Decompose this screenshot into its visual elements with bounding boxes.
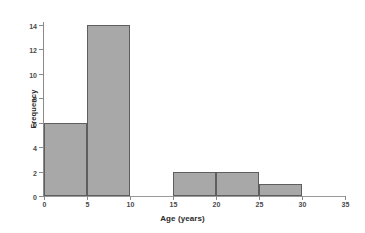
- x-tick-label: 0: [43, 201, 47, 208]
- histogram-bar: [87, 25, 130, 196]
- plot-area: [44, 22, 345, 196]
- x-tick: 15: [173, 196, 174, 200]
- y-axis-title: Frequency: [29, 90, 38, 129]
- y-tick: 0: [39, 196, 43, 197]
- y-tick: 8: [39, 98, 43, 99]
- x-tick-label: 20: [213, 201, 221, 208]
- histogram-bar: [216, 172, 259, 196]
- y-tick-mark: [39, 49, 43, 50]
- y-tick: 14: [39, 25, 43, 26]
- histogram-bar: [259, 184, 302, 196]
- x-tick-label: 15: [170, 201, 178, 208]
- y-tick: 10: [39, 74, 43, 75]
- x-axis-spine: [44, 196, 346, 197]
- y-tick: 6: [39, 123, 43, 124]
- x-tick-label: 5: [86, 201, 90, 208]
- y-tick-label: 0: [33, 193, 37, 200]
- y-tick-label: 2: [33, 169, 37, 176]
- y-tick-mark: [39, 196, 43, 197]
- y-tick: 4: [39, 147, 43, 148]
- x-tick: 5: [87, 196, 88, 200]
- y-tick-mark: [39, 25, 43, 26]
- y-tick-label: 4: [33, 144, 37, 151]
- y-tick-label: 14: [29, 22, 37, 29]
- x-tick: 20: [216, 196, 217, 200]
- x-tick-label: 35: [342, 201, 350, 208]
- x-tick: 25: [259, 196, 260, 200]
- x-tick-label: 10: [127, 201, 135, 208]
- x-axis-title: Age (years): [0, 214, 365, 223]
- x-tick: 10: [130, 196, 131, 200]
- y-tick-mark: [39, 74, 43, 75]
- y-tick-mark: [39, 123, 43, 124]
- y-tick-label: 12: [29, 46, 37, 53]
- y-tick-mark: [39, 147, 43, 148]
- histogram-bar: [173, 172, 216, 196]
- y-tick-mark: [39, 172, 43, 173]
- y-tick: 12: [39, 49, 43, 50]
- histogram-bar: [44, 123, 87, 196]
- histogram-figure: 02468101214 05101520253035 Age (years) F…: [0, 0, 365, 233]
- x-tick: 0: [44, 196, 45, 200]
- x-tick-label: 30: [299, 201, 307, 208]
- y-tick: 2: [39, 172, 43, 173]
- x-tick: 35: [345, 196, 346, 200]
- y-tick-mark: [39, 98, 43, 99]
- y-tick-label: 10: [29, 71, 37, 78]
- x-tick-label: 25: [256, 201, 264, 208]
- x-tick: 30: [302, 196, 303, 200]
